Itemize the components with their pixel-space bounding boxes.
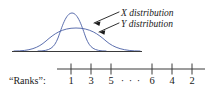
rank-label-2: 2	[185, 76, 199, 87]
rank-ellipsis: · · ·	[120, 76, 142, 87]
y-distribution-label: Y distribution	[121, 20, 173, 30]
rank-label-5: 5	[104, 76, 118, 87]
x-distribution-label: X distribution	[121, 9, 174, 19]
x-distribution-curve	[38, 13, 106, 51]
rank-label-4: 4	[165, 76, 179, 87]
y-distribution-arrow	[99, 23, 119, 35]
ranks-caption: “Ranks”:	[9, 76, 46, 86]
rank-label-1: 1	[64, 76, 78, 87]
rank-label-6: 6	[145, 76, 159, 87]
rank-distribution-figure: X distribution Y distribution “Ranks”: 1…	[0, 0, 210, 98]
y-distribution-curve	[14, 28, 140, 51]
rank-label-3: 3	[84, 76, 98, 87]
x-distribution-arrow	[94, 12, 119, 26]
